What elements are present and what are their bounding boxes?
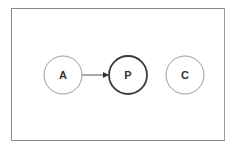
node-c-label: C: [181, 69, 189, 81]
node-c: C: [166, 56, 204, 94]
node-p: P: [109, 56, 147, 94]
diagram-canvas: A P C: [0, 0, 234, 150]
node-a: A: [44, 56, 82, 94]
node-a-label: A: [59, 69, 67, 81]
node-p-label: P: [124, 69, 131, 81]
